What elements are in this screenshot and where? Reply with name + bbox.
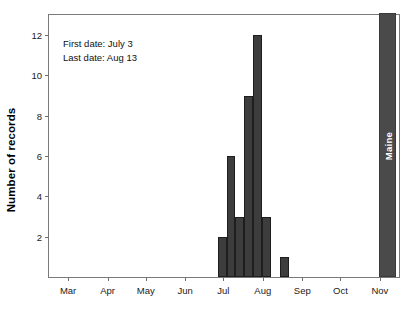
x-tick-label: Jun bbox=[178, 285, 193, 296]
x-tick-mark bbox=[146, 277, 147, 281]
y-tick-label: 4 bbox=[37, 191, 42, 202]
x-tick-mark bbox=[380, 277, 381, 281]
annotation-block: First date: July 3 Last date: Aug 13 bbox=[63, 37, 137, 65]
y-tick-mark bbox=[45, 196, 49, 197]
x-tick-mark bbox=[185, 277, 186, 281]
bar-bin-jul-10 bbox=[227, 156, 236, 277]
y-tick-label: 10 bbox=[31, 70, 42, 81]
x-tick-mark bbox=[223, 277, 224, 281]
bar-bin-aug-13 bbox=[280, 257, 289, 277]
x-tick-label: Apr bbox=[100, 285, 115, 296]
x-tick-label: Aug bbox=[254, 285, 271, 296]
bar-label-state-total: Maine bbox=[382, 132, 393, 160]
x-tick-label: Jul bbox=[217, 285, 229, 296]
y-tick-label: 12 bbox=[31, 30, 42, 41]
annotation-last-date: Last date: Aug 13 bbox=[63, 51, 137, 65]
y-tick-mark bbox=[45, 75, 49, 76]
bar-bin-jul-24 bbox=[244, 96, 253, 277]
plot-area: Maine First date: July 3 Last date: Aug … bbox=[48, 14, 400, 278]
x-tick-label: Oct bbox=[333, 285, 348, 296]
y-tick-label: 8 bbox=[37, 110, 42, 121]
y-tick-label: 2 bbox=[37, 231, 42, 242]
x-tick-label: Mar bbox=[60, 285, 76, 296]
y-tick-mark bbox=[45, 156, 49, 157]
x-tick-label: Sep bbox=[294, 285, 311, 296]
bar-bin-aug-07 bbox=[262, 217, 271, 277]
y-tick-mark bbox=[45, 35, 49, 36]
bar-bin-jul-17 bbox=[235, 217, 244, 277]
x-tick-mark bbox=[340, 277, 341, 281]
y-tick-label: 6 bbox=[37, 151, 42, 162]
histogram-figure: Number of records Maine First date: July… bbox=[0, 0, 416, 320]
y-tick-mark bbox=[45, 116, 49, 117]
bar-bin-jul-03 bbox=[218, 237, 227, 277]
x-tick-label: May bbox=[137, 285, 155, 296]
annotation-first-date: First date: July 3 bbox=[63, 37, 137, 51]
y-tick-mark bbox=[45, 237, 49, 238]
x-tick-label: Nov bbox=[371, 285, 388, 296]
x-tick-mark bbox=[263, 277, 264, 281]
bar-bin-jul-31 bbox=[253, 35, 262, 277]
x-tick-mark bbox=[302, 277, 303, 281]
x-tick-mark bbox=[108, 277, 109, 281]
y-axis-title: Number of records bbox=[0, 0, 22, 320]
x-tick-mark bbox=[68, 277, 69, 281]
